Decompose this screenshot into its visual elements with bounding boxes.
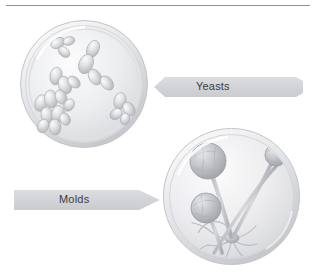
- sporangium-icon: [190, 143, 226, 179]
- yeasts-label: Yeasts: [196, 81, 230, 92]
- yeast-petri-dish: [19, 19, 149, 149]
- top-divider-rule: [6, 5, 310, 6]
- sporangium-icon: [191, 193, 221, 223]
- mold-petri-dish: [162, 127, 301, 266]
- molds-label: Molds: [59, 194, 89, 205]
- figure-canvas: Yeasts Molds: [0, 0, 316, 272]
